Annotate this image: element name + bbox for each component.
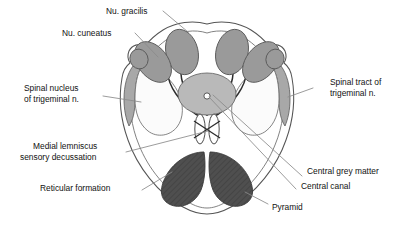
label-spinal-nucleus-line1: Spinal nucleus [24, 83, 78, 93]
anatomy-diagram-svg: Nu. gracilis Nu. cuneatus Spinal nucleus… [0, 0, 414, 229]
central-canal [204, 93, 210, 99]
sensory-decussation-left [195, 114, 205, 144]
medulla-cross-section-figure: Nu. gracilis Nu. cuneatus Spinal nucleus… [0, 0, 414, 229]
label-medial-lemniscus-line1: Medial lemniscus [33, 141, 97, 151]
label-medial-lemniscus-line2: sensory decussation [20, 152, 97, 162]
sensory-decussation-right [209, 114, 219, 144]
label-central-canal: Central canal [301, 181, 350, 191]
label-spinal-nucleus-line2: of trigeminal n. [24, 94, 79, 104]
label-pyramid: Pyramid [272, 202, 303, 212]
label-spinal-tract-line2: trigeminal n. [330, 88, 376, 98]
label-nu-gracilis: Nu. gracilis [106, 6, 147, 16]
label-central-grey-matter: Central grey matter [307, 166, 379, 176]
label-reticular-formation: Reticular formation [40, 183, 111, 193]
label-spinal-tract-line1: Spinal tract of [330, 77, 382, 87]
label-nu-cuneatus: Nu. cuneatus [62, 28, 111, 38]
central-grey-matter-group [178, 73, 236, 115]
